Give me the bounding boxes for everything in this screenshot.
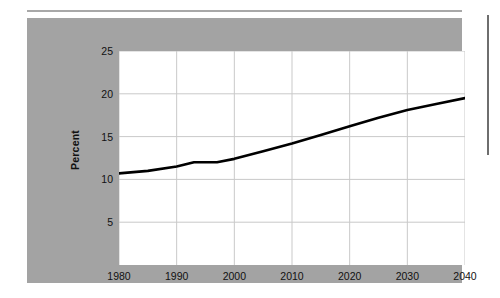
x-tick-label: 2030 bbox=[377, 271, 437, 282]
x-tick-label: 1990 bbox=[147, 271, 207, 282]
data-series-line bbox=[119, 51, 465, 265]
right-divider-rule bbox=[487, 15, 489, 155]
y-tick-label: 10 bbox=[67, 174, 113, 185]
y-tick-label: 5 bbox=[67, 217, 113, 228]
x-tick-label: 2000 bbox=[204, 271, 264, 282]
x-tick-label: 2020 bbox=[320, 271, 380, 282]
x-tick-label: 2010 bbox=[262, 271, 322, 282]
x-tick-label: 1980 bbox=[89, 271, 149, 282]
x-tick-label: 2040 bbox=[435, 271, 495, 282]
y-tick-label: 20 bbox=[67, 89, 113, 100]
y-tick-label: 25 bbox=[67, 46, 113, 57]
plot-area bbox=[119, 51, 465, 265]
y-tick-label: 15 bbox=[67, 131, 113, 142]
chart-figure-panel: Percent 510152025 1980199020002010202020… bbox=[27, 18, 462, 283]
top-divider-rule bbox=[27, 10, 462, 12]
x-axis-tick-labels: 1980199020002010202020302040 bbox=[119, 271, 465, 287]
y-axis-tick-labels: 510152025 bbox=[65, 51, 113, 265]
